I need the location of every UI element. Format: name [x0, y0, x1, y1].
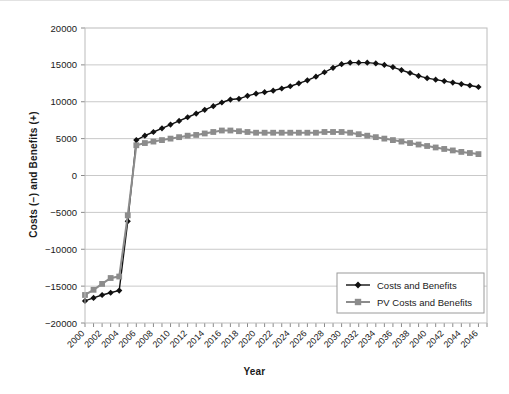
data-point-marker: [210, 103, 216, 109]
x-tick-label: 2026: [288, 328, 309, 349]
x-tick-label: 2000: [65, 328, 86, 349]
x-tick-label: 2002: [82, 328, 103, 349]
data-point-marker: [279, 85, 285, 91]
x-tick-label: 2018: [219, 328, 240, 349]
data-point-marker: [167, 122, 173, 128]
x-tick-label: 2014: [185, 328, 206, 349]
x-tick-label: 2042: [424, 328, 445, 349]
data-point-marker: [416, 142, 422, 148]
data-point-marker: [330, 129, 336, 135]
data-point-marker: [151, 139, 157, 145]
data-point-marker: [262, 89, 268, 95]
data-point-marker: [244, 93, 250, 99]
x-tick-label: 2004: [99, 328, 120, 349]
data-point-marker: [202, 131, 208, 137]
data-point-marker: [330, 65, 336, 71]
data-point-marker: [91, 287, 97, 293]
data-point-marker: [287, 130, 293, 136]
data-point-marker: [287, 83, 293, 89]
data-point-marker: [373, 60, 379, 66]
data-point-marker: [458, 149, 464, 155]
data-series: [82, 60, 482, 304]
data-point-marker: [313, 130, 319, 136]
data-point-marker: [433, 77, 439, 83]
square-marker: [355, 299, 361, 305]
data-point-marker: [347, 130, 353, 136]
data-point-marker: [262, 130, 268, 136]
data-point-marker: [142, 140, 148, 146]
x-tick-label: 2040: [407, 328, 428, 349]
data-point-marker: [99, 281, 105, 287]
data-point-marker: [475, 84, 481, 90]
y-tick-label: 20000: [51, 23, 77, 34]
data-point-marker: [193, 110, 199, 116]
x-tick-label: 2028: [305, 328, 326, 349]
data-point-marker: [279, 130, 285, 136]
data-point-marker: [236, 96, 242, 102]
x-tick-label: 2022: [253, 328, 274, 349]
series-line-1: [85, 63, 478, 301]
data-point-marker: [467, 82, 473, 88]
data-point-marker: [176, 134, 182, 140]
x-tick-label: 2010: [151, 328, 172, 349]
data-point-marker: [458, 81, 464, 87]
data-point-marker: [202, 107, 208, 113]
data-point-marker: [476, 151, 482, 157]
data-point-marker: [159, 125, 165, 131]
data-point-marker: [90, 295, 96, 301]
x-tick-label: 2006: [116, 328, 137, 349]
data-point-marker: [296, 80, 302, 86]
x-tick-label: 2044: [442, 328, 463, 349]
x-tick-label: 2030: [322, 328, 343, 349]
chart-legend[interactable]: Costs and BenefitsPV Costs and Benefits: [337, 273, 484, 313]
data-point-marker: [133, 137, 139, 143]
y-tick-label: −20000: [45, 318, 77, 329]
data-point-marker: [339, 129, 345, 135]
x-tick-label: 2024: [270, 328, 291, 349]
data-point-marker: [390, 137, 396, 143]
y-tick-label: −15000: [45, 281, 77, 292]
data-point-marker: [185, 114, 191, 120]
data-point-marker: [450, 148, 456, 154]
x-axis-ticks: 2000200220042006200820102012201420162018…: [65, 323, 487, 350]
data-point-marker: [399, 139, 405, 145]
x-tick-label: 2032: [339, 328, 360, 349]
data-point-marker: [270, 130, 276, 136]
data-point-marker: [373, 134, 379, 140]
data-point-marker: [245, 129, 251, 135]
data-point-marker: [415, 73, 421, 79]
data-point-marker: [296, 130, 302, 136]
data-point-marker: [159, 137, 165, 143]
data-point-marker: [304, 77, 310, 83]
legend-label-1[interactable]: Costs and Benefits: [377, 280, 457, 291]
y-tick-label: 10000: [51, 96, 77, 107]
x-tick-label: 2046: [459, 328, 480, 349]
x-tick-label: 2034: [356, 328, 377, 349]
data-point-marker: [313, 74, 319, 80]
data-point-marker: [407, 70, 413, 76]
plot-canvas: 20000150001000050000−5000−10000−15000−20…: [0, 1, 509, 394]
x-tick-label: 2036: [373, 328, 394, 349]
data-point-marker: [150, 129, 156, 135]
data-point-marker: [398, 67, 404, 73]
data-point-marker: [381, 136, 387, 142]
data-point-marker: [228, 128, 234, 134]
data-point-marker: [433, 145, 439, 151]
x-tick-label: 2038: [390, 328, 411, 349]
data-point-marker: [168, 136, 174, 142]
chart-figure: Costs (−) and Benefits (+) Year 20000150…: [0, 0, 509, 394]
data-point-marker: [219, 128, 225, 134]
data-point-marker: [356, 131, 362, 137]
data-point-marker: [185, 133, 191, 139]
legend-label-2[interactable]: PV Costs and Benefits: [377, 297, 472, 308]
data-point-marker: [407, 140, 413, 146]
data-point-marker: [381, 62, 387, 68]
y-tick-label: 0: [72, 170, 77, 181]
data-point-marker: [116, 274, 122, 280]
y-tick-label: 5000: [56, 133, 77, 144]
data-point-marker: [253, 130, 259, 136]
data-point-marker: [125, 212, 131, 218]
data-point-marker: [99, 292, 105, 298]
data-point-marker: [210, 129, 216, 135]
gridlines: [85, 65, 487, 286]
